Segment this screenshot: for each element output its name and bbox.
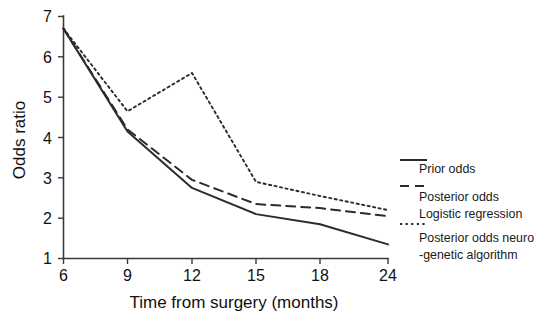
y-tick-label: 1 bbox=[43, 250, 52, 267]
y-tick-labels: 7 6 5 4 3 2 1 bbox=[43, 8, 52, 267]
series-line-posterior-odds-logistic-regression bbox=[64, 29, 389, 217]
x-axis-title: Time from surgery (months) bbox=[129, 293, 338, 312]
y-tick-label: 3 bbox=[43, 170, 52, 187]
series-line-prior-odds bbox=[64, 29, 389, 245]
axes-group bbox=[64, 16, 389, 259]
y-tick-label: 5 bbox=[43, 89, 52, 106]
legend-entry-prior-odds-label: Prior odds bbox=[419, 162, 475, 177]
y-tick-marks bbox=[58, 17, 64, 259]
y-tick-label: 6 bbox=[43, 49, 52, 66]
legend-entry-posterior-ng-label-line1: Posterior odds neuro bbox=[419, 231, 534, 246]
y-axis-title: Odds ratio bbox=[10, 101, 29, 179]
legend-entry-posterior-lr-label-line1: Posterior odds bbox=[419, 190, 499, 205]
x-tick-label: 15 bbox=[247, 267, 265, 284]
y-tick-label: 7 bbox=[43, 8, 52, 25]
x-tick-label: 9 bbox=[123, 267, 132, 284]
plot-canvas: 7 6 5 4 3 2 1 6 9 12 15 18 24 Time from bbox=[0, 0, 549, 321]
x-tick-label: 12 bbox=[183, 267, 201, 284]
legend-entry-posterior-ng-label-line2: -genetic algorithm bbox=[419, 248, 517, 263]
series-group bbox=[64, 29, 389, 245]
x-tick-labels: 6 9 12 15 18 24 bbox=[59, 267, 397, 284]
x-tick-label: 6 bbox=[59, 267, 68, 284]
odds-ratio-line-chart: 7 6 5 4 3 2 1 6 9 12 15 18 24 Time from bbox=[0, 0, 549, 321]
legend-entry-posterior-lr-label-line2: Logistic regression bbox=[419, 207, 522, 222]
x-tick-marks bbox=[64, 259, 389, 265]
y-tick-label: 4 bbox=[43, 130, 52, 147]
y-tick-label: 2 bbox=[43, 210, 52, 227]
series-line-posterior-odds-neuro-genetic bbox=[64, 29, 389, 211]
x-tick-label: 24 bbox=[379, 267, 397, 284]
x-tick-label: 18 bbox=[311, 267, 329, 284]
